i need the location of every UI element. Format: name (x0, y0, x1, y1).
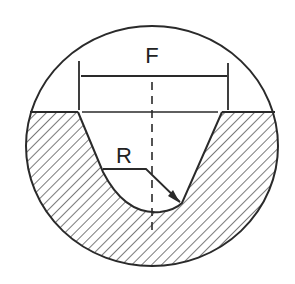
label-r: R (116, 143, 132, 168)
hatched-section (20, 112, 285, 275)
groove-diagram: F R (0, 0, 295, 284)
label-f: F (145, 43, 158, 68)
